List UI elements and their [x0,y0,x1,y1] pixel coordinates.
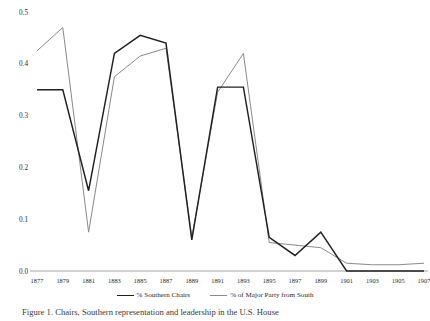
y-axis-tick-label: 0.2 [19,164,28,172]
y-axis-tick-labels: 0.00.10.20.30.40.5 [19,9,28,276]
figure-container: 0.00.10.20.30.40.5 187718791881188318851… [0,0,430,321]
x-axis-tick-label: 1907 [418,277,430,284]
x-axis-tick-label: 1879 [56,277,69,284]
x-axis-tick-label: 1887 [160,277,174,284]
x-axis-tick-label: 1891 [211,277,224,284]
line-chart: 0.00.10.20.30.40.5 187718791881188318851… [0,0,430,288]
y-axis-tick-label: 0.3 [19,112,28,120]
y-axis-tick-label: 0.4 [19,60,28,68]
y-axis-tick-label: 0.1 [19,216,28,224]
x-axis-tick-label: 1899 [314,277,327,284]
legend-swatch-icon-southern-chairs [117,295,134,296]
x-axis-tick-label: 1905 [392,277,405,284]
series-line-southern-chairs [37,35,424,271]
x-axis-tick-label: 1877 [31,277,45,284]
x-axis-tick-label: 1883 [108,277,121,284]
x-axis-tick-label: 1897 [289,277,303,284]
y-axis-tick-label: 0.5 [19,9,28,17]
x-axis-tick-label: 1893 [237,277,250,284]
x-axis-tick-labels: 1877187918811883188518871889189118931895… [31,277,430,284]
x-axis-tick-label: 1885 [134,277,147,284]
x-axis-tick-label: 1895 [263,277,276,284]
series-line-major-party-from-south [37,28,424,265]
chart-plot-area: 0.00.10.20.30.40.5 187718791881188318851… [0,0,430,288]
x-axis-tick-label: 1881 [82,277,95,284]
x-axis-tick-label: 1903 [366,277,379,284]
x-axis-tick-label: 1901 [340,277,353,284]
legend-item-major-party-from-south: % of Major Party from South [210,292,313,299]
legend-label-southern-chairs: % Southern Chairs [137,292,191,299]
figure-caption: Figure 1. Chairs, Southern representatio… [22,307,422,318]
x-axis-tick-label: 1889 [185,277,198,284]
y-axis-tick-label: 0.0 [19,268,28,276]
legend-item-southern-chairs: % Southern Chairs [117,292,191,299]
legend-swatch-icon-major-party-from-south [210,295,227,296]
chart-legend: % Southern Chairs % of Major Party from … [0,289,430,302]
legend-label-major-party-from-south: % of Major Party from South [230,292,313,299]
